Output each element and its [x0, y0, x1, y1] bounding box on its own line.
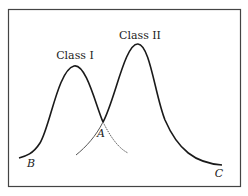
- class-1-label: Class I: [56, 49, 94, 62]
- class-1-tail: [103, 122, 128, 153]
- point-c-label: C: [215, 167, 224, 180]
- class-2-label: Class II: [119, 29, 161, 42]
- point-b-label: B: [26, 157, 35, 170]
- point-a-label: A: [96, 127, 105, 140]
- class-1-curve: [19, 66, 103, 158]
- diagram-canvas: Class I Class II A B C: [0, 0, 248, 196]
- class-2-curve: [103, 44, 222, 165]
